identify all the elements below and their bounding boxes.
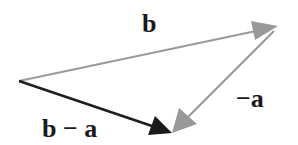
label-b: b — [142, 11, 156, 37]
label-neg-a: −a — [236, 86, 264, 112]
vector-diagram: b −a b − a — [0, 0, 298, 145]
label-b-minus-a: b − a — [42, 116, 97, 142]
vector-b-arrowhead-icon — [251, 21, 278, 40]
vector-b-minus-a-arrowhead-icon — [148, 116, 172, 135]
vector-b-shaft — [19, 31, 256, 81]
